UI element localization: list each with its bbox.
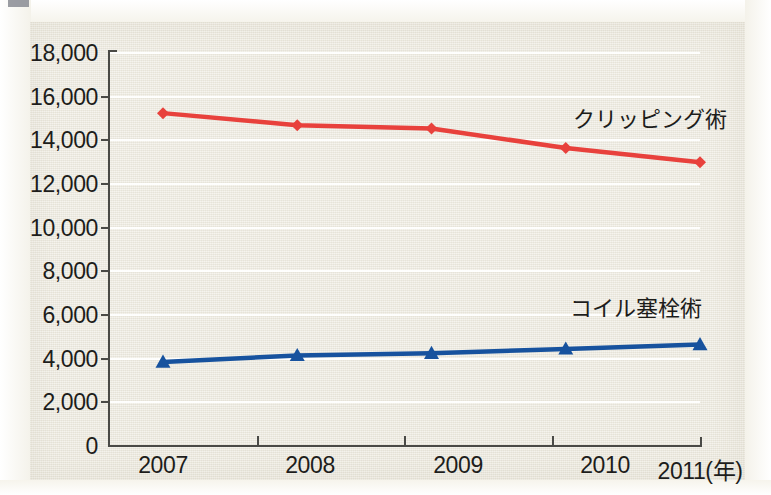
series-label-coil: コイル塞栓術 [570, 290, 702, 322]
data-point-marker [426, 122, 438, 134]
series-label-clipping: クリッピング術 [573, 101, 727, 133]
data-point-marker [560, 142, 572, 154]
data-point-marker [291, 119, 303, 131]
series-coil [156, 337, 708, 368]
line-chart: 18,000 16,000 14,000 12,000 10,000 8,000… [0, 0, 771, 495]
data-point-marker [694, 156, 706, 168]
data-point-marker [157, 107, 169, 119]
series-plot [0, 0, 771, 495]
